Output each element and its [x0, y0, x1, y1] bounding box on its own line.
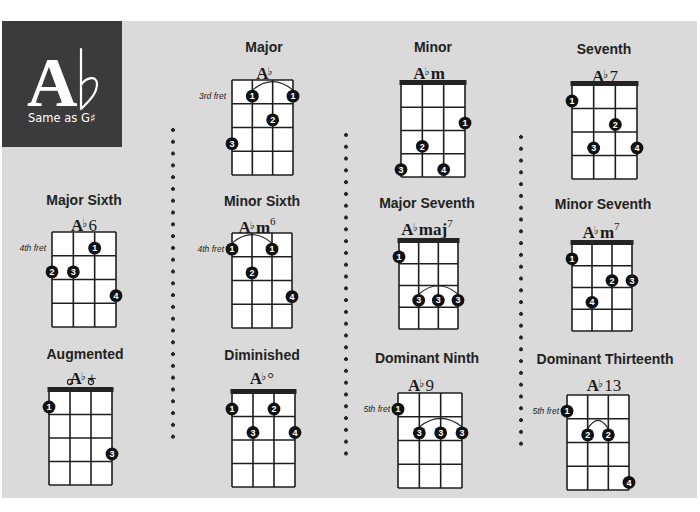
finger-number: 2	[609, 276, 614, 286]
finger-number: 4	[292, 428, 297, 438]
finger-number: 1	[229, 404, 234, 414]
open-string-icon	[67, 379, 72, 384]
finger-number: 3	[459, 428, 464, 438]
finger-number: 4	[626, 478, 631, 488]
finger-number: 1	[462, 118, 467, 128]
chord-diagram-seventh: 1234	[566, 81, 644, 179]
finger-number: 1	[569, 96, 574, 106]
finger-number: 1	[290, 91, 295, 101]
finger-number: 1	[46, 402, 51, 412]
fret-position-label: 4th fret	[198, 244, 225, 254]
finger-number: 3	[398, 165, 403, 175]
finger-number: 3	[71, 267, 76, 277]
finger-number: 4	[113, 291, 118, 301]
chord-diagram-minor-seventh: 1234	[566, 240, 639, 331]
finger-number: 4	[289, 292, 294, 302]
finger-number: 2	[420, 142, 425, 152]
chord-diagram-major: 3rd fret3121	[199, 80, 299, 175]
fret-position-label: 4th fret	[20, 243, 47, 253]
finger-number: 1	[569, 254, 574, 264]
chord-diagram-major-sixth: 4th fret1234	[20, 232, 123, 327]
finger-number: 4	[589, 297, 594, 307]
chord-diagrams-layer: 3rd fret3121 1234 1234 4th fret1234 4th …	[0, 0, 700, 512]
finger-number: 4	[441, 165, 446, 175]
finger-number: 1	[269, 244, 274, 254]
open-string-icon	[88, 379, 93, 384]
finger-number: 2	[606, 430, 611, 440]
nut	[571, 240, 634, 245]
fret-position-label: 3rd fret	[199, 91, 227, 101]
finger-number: 4	[634, 143, 639, 153]
finger-number: 1	[395, 404, 400, 414]
finger-number: 3	[436, 295, 441, 305]
finger-number: 2	[585, 430, 590, 440]
fret-position-label: 5th fret	[364, 404, 391, 414]
finger-number: 2	[270, 115, 275, 125]
finger-number: 3	[417, 428, 422, 438]
chord-diagram-dominant-ninth: 5th fret1333	[364, 393, 469, 488]
finger-number: 3	[455, 295, 460, 305]
finger-number: 3	[416, 295, 421, 305]
chord-diagram-major-seventh: 1333	[393, 238, 465, 329]
fret-position-label: 5th fret	[533, 406, 560, 416]
finger-number: 3	[109, 449, 114, 459]
finger-number: 3	[229, 139, 234, 149]
finger-number: 3	[438, 428, 443, 438]
finger-number: 1	[92, 243, 97, 253]
chord-diagram-augmented: 13	[43, 379, 119, 485]
finger-number: 3	[629, 276, 634, 286]
nut	[231, 389, 297, 394]
finger-number: 1	[396, 252, 401, 262]
finger-number: 2	[49, 267, 54, 277]
finger-number: 3	[591, 143, 596, 153]
finger-number: 3	[250, 428, 255, 438]
nut	[571, 81, 639, 86]
nut	[48, 387, 114, 392]
finger-number: 2	[613, 120, 618, 130]
chord-diagram-dominant-thirteenth: 5th fret1224	[533, 395, 636, 490]
finger-number: 1	[229, 244, 234, 254]
chord-diagram-minor-sixth: 4th fret1124	[198, 233, 299, 328]
chord-diagram-diminished: 1234	[226, 389, 302, 487]
nut	[398, 238, 460, 243]
chord-diagram-minor: 1234	[395, 80, 472, 177]
finger-number: 2	[249, 268, 254, 278]
nut	[400, 80, 467, 85]
finger-number: 1	[250, 91, 255, 101]
finger-number: 2	[271, 404, 276, 414]
finger-number: 1	[564, 406, 569, 416]
